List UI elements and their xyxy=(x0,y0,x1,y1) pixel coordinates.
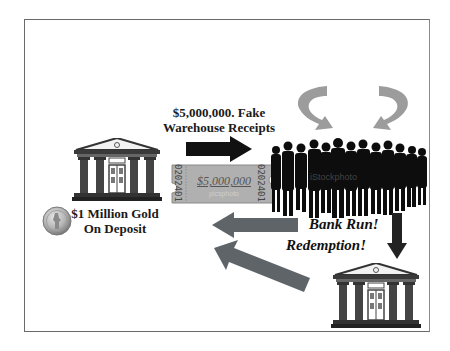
gold-coin-icon xyxy=(42,206,72,236)
black-arrow-right-icon xyxy=(186,136,252,162)
ticket-serial-left: 0202401 xyxy=(173,164,183,202)
receipts-label-line2: Warehouse Receipts xyxy=(148,120,290,135)
gray-arrow-diagonal-icon xyxy=(214,240,310,292)
black-arrow-down-icon xyxy=(387,213,407,259)
crowd-silhouette: iStockphoto xyxy=(268,136,428,220)
bank-run-label: Bank Run! xyxy=(309,216,379,233)
gold-label-line1: $1 Million Gold xyxy=(70,206,160,221)
gold-deposit-label: $1 Million Gold On Deposit xyxy=(70,206,160,236)
receipts-label-line1: $5,000,000. Fake xyxy=(148,105,290,120)
circular-arrows-icon xyxy=(293,84,413,136)
bank-bottom-right-icon xyxy=(331,263,421,329)
warehouse-receipt-ticket: 0202401 0202401 $5,000,000 picsphoto xyxy=(168,163,278,205)
gray-arrow-left-icon xyxy=(212,212,298,238)
gold-label-line2: On Deposit xyxy=(70,221,160,236)
ticket-amount: $5,000,000 xyxy=(188,174,260,189)
crowd-watermark: iStockphoto xyxy=(310,172,357,182)
bank-left-icon xyxy=(72,138,162,202)
receipts-label: $5,000,000. Fake Warehouse Receipts xyxy=(148,105,290,135)
ticket-watermark: picsphoto xyxy=(190,190,258,197)
